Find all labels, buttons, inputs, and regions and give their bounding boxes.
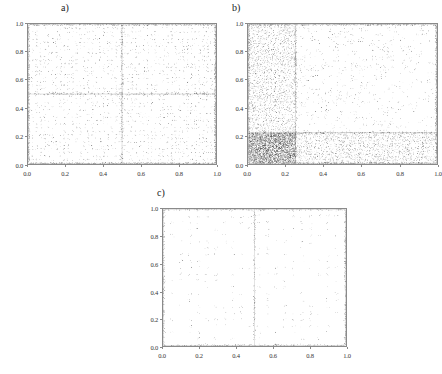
panel-b-xtick-label: 0.0 [243, 170, 251, 177]
panel-c-scatter-canvas [163, 209, 346, 346]
panel-c-xtick-mark [310, 347, 311, 349]
panel-a-xtick-label: 0.2 [61, 170, 69, 177]
panel-c-label: c) [157, 187, 165, 198]
panel-b-label: b) [232, 2, 240, 13]
panel-b-ytick-mark [245, 165, 247, 166]
panel-a-xtick-mark [27, 165, 28, 167]
panel-c-ytick-label: 0.0 [140, 344, 158, 351]
panel-b-ytick-mark [245, 79, 247, 80]
panel-c-ytick-mark [160, 208, 162, 209]
panel-a-xtick-mark [179, 165, 180, 167]
panel-c-ytick-mark [160, 319, 162, 320]
panel-b: b) 0.0 0.2 0.4 0.6 0.8 1.0 0.0 0.2 0.4 0… [219, 0, 441, 190]
panel-a-ytick-label: 0.6 [5, 76, 23, 83]
panel-b-xtick-label: 1.0 [434, 170, 442, 177]
panel-a-label: a) [61, 2, 69, 13]
panel-c-xtick-label: 0.8 [306, 352, 314, 359]
panel-b-ytick-label: 0.0 [225, 162, 243, 169]
panel-c: c) 0.0 0.2 0.4 0.6 0.8 1.0 0.0 0.2 0.4 0… [110, 185, 350, 374]
panel-a-xtick-label: 0.6 [137, 170, 145, 177]
panel-c-ytick-mark [160, 347, 162, 348]
panel-b-ytick-label: 0.4 [225, 105, 243, 112]
panel-c-plot-area [162, 208, 347, 347]
panel-b-xtick-label: 0.2 [281, 170, 289, 177]
panel-b-ytick-label: 0.8 [225, 48, 243, 55]
panel-c-xtick-label: 0.4 [232, 352, 240, 359]
panel-b-scatter-canvas [248, 24, 437, 164]
panel-a-ytick-label: 1.0 [5, 20, 23, 27]
panel-c-xtick-mark [199, 347, 200, 349]
panel-c-xtick-mark [162, 347, 163, 349]
panel-a-ytick-label: 0.4 [5, 105, 23, 112]
panel-c-ytick-mark [160, 264, 162, 265]
panel-a-xtick-label: 0.8 [175, 170, 183, 177]
panel-a-xtick-mark [141, 165, 142, 167]
panel-c-ytick-label: 0.6 [140, 261, 158, 268]
panel-b-ytick-mark [245, 23, 247, 24]
panel-a-plot-area [27, 23, 217, 165]
panel-c-ytick-label: 0.2 [140, 316, 158, 323]
panel-b-plot-area [247, 23, 438, 165]
panel-a-xtick-label: 0.4 [99, 170, 107, 177]
panel-a-ytick-label: 0.0 [5, 162, 23, 169]
panel-a-ytick-mark [25, 51, 27, 52]
panel-b-xtick-mark [438, 165, 439, 167]
panel-c-xtick-mark [236, 347, 237, 349]
panel-a-ytick-mark [25, 23, 27, 24]
panel-b-ytick-mark [245, 51, 247, 52]
panel-a-ytick-mark [25, 136, 27, 137]
panel-b-ytick-mark [245, 136, 247, 137]
panel-b-ytick-label: 1.0 [225, 20, 243, 27]
panel-b-xtick-label: 0.4 [319, 170, 327, 177]
panel-a-ytick-mark [25, 108, 27, 109]
panel-a-xtick-label: 0.0 [23, 170, 31, 177]
panel-a-ytick-label: 0.2 [5, 133, 23, 140]
panel-a-ytick-label: 0.8 [5, 48, 23, 55]
panel-b-ytick-label: 0.6 [225, 76, 243, 83]
panel-b-ytick-label: 0.2 [225, 133, 243, 140]
panel-b-xtick-label: 0.6 [357, 170, 365, 177]
panel-a-scatter-canvas [28, 24, 216, 164]
panel-c-ytick-mark [160, 236, 162, 237]
panel-c-xtick-label: 0.0 [158, 352, 166, 359]
panel-b-xtick-mark [323, 165, 324, 167]
panel-b-xtick-mark [400, 165, 401, 167]
panel-c-xtick-mark [273, 347, 274, 349]
panel-b-xtick-mark [285, 165, 286, 167]
panel-c-xtick-label: 0.6 [269, 352, 277, 359]
panel-b-ytick-mark [245, 108, 247, 109]
panel-c-ytick-label: 0.4 [140, 289, 158, 296]
panel-a-xtick-mark [65, 165, 66, 167]
panel-a-ytick-mark [25, 165, 27, 166]
panel-a: a) 0.0 0.2 0.4 0.6 0.8 1.0 0.0 0.2 0.4 0… [0, 0, 219, 190]
panel-b-xtick-mark [247, 165, 248, 167]
panel-a-xtick-mark [103, 165, 104, 167]
panel-c-ytick-label: 0.8 [140, 233, 158, 240]
panel-c-xtick-mark [347, 347, 348, 349]
panel-b-xtick-label: 0.8 [396, 170, 404, 177]
panel-b-xtick-mark [361, 165, 362, 167]
panel-a-ytick-mark [25, 79, 27, 80]
panel-c-xtick-label: 0.2 [195, 352, 203, 359]
panel-a-xtick-mark [217, 165, 218, 167]
panel-c-ytick-mark [160, 292, 162, 293]
panel-c-xtick-label: 1.0 [343, 352, 351, 359]
panel-c-ytick-label: 1.0 [140, 205, 158, 212]
